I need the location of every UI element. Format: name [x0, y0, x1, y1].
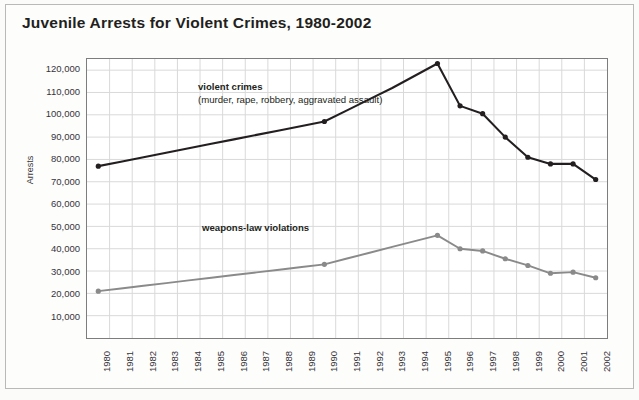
series-data-point [96, 289, 101, 294]
series-data-point [96, 164, 101, 169]
series-data-point [548, 161, 553, 166]
series-data-point [457, 246, 462, 251]
series-data-point [503, 256, 508, 261]
chart-figure: Juvenile Arrests for Violent Crimes, 198… [0, 0, 639, 400]
series-data-point [570, 161, 575, 166]
series-annotation-violent-crimes-label: violent crimes [198, 81, 382, 94]
series-data-point [525, 263, 530, 268]
series-data-point [322, 262, 327, 267]
series-data-point [593, 275, 598, 280]
series-data-point [435, 61, 440, 66]
series-annotation-weapons-law-violations: weapons-law violations [202, 222, 309, 233]
series-annotation-violent-crimes-sublabel: (murder, rape, robbery, aggravated assau… [198, 94, 382, 107]
series-data-point [548, 271, 553, 276]
series-data-point [322, 119, 327, 124]
series-data-point [480, 248, 485, 253]
series-data-point [503, 135, 508, 140]
series-data-point [525, 155, 530, 160]
series-line [98, 235, 595, 291]
series-data-point [593, 177, 598, 182]
series-data-point [570, 270, 575, 275]
page-title: Juvenile Arrests for Violent Crimes, 198… [22, 14, 372, 32]
y-axis-title: Arrests [25, 130, 35, 210]
series-annotation-violent-crimes: violent crimes (murder, rape, robbery, a… [198, 81, 382, 106]
series-data-point [435, 233, 440, 238]
series-data-point [480, 111, 485, 116]
series-data-point [457, 103, 462, 108]
